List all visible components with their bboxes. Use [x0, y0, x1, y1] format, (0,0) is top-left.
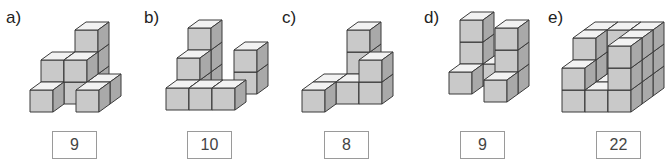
cube — [302, 82, 336, 112]
cube — [495, 20, 529, 50]
cube — [359, 52, 393, 82]
cube — [212, 80, 246, 110]
cube — [484, 72, 518, 102]
figure-panel-b: b)10 — [140, 0, 280, 157]
cube-figure — [140, 0, 280, 130]
cube — [573, 30, 607, 60]
cube-figure — [530, 0, 669, 130]
cube — [562, 60, 596, 90]
cube — [460, 12, 494, 42]
answer-box[interactable]: 9 — [52, 131, 97, 159]
cube — [75, 22, 109, 52]
cube-figure — [0, 0, 140, 130]
figure-panel-a: a)9 — [0, 0, 140, 157]
cube — [188, 20, 222, 50]
figure-panel-e: e)22 — [530, 0, 669, 157]
cube — [177, 50, 211, 80]
cube — [76, 82, 110, 112]
cube — [347, 22, 381, 52]
answer-box[interactable]: 8 — [324, 131, 369, 159]
cube-figure — [280, 0, 420, 130]
cube — [608, 38, 642, 68]
answer-box[interactable]: 22 — [596, 131, 641, 159]
answer-box[interactable]: 9 — [460, 131, 505, 159]
cube — [449, 64, 483, 94]
figure-panel-c: c)8 — [280, 0, 420, 157]
cube — [30, 82, 64, 112]
answer-box[interactable]: 10 — [187, 131, 232, 159]
cube — [234, 42, 268, 72]
cube — [64, 52, 98, 82]
